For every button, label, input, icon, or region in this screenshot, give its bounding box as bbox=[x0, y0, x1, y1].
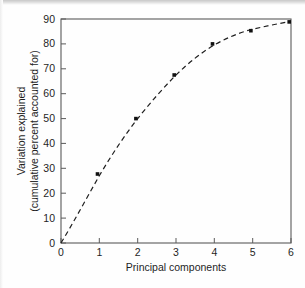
x-tick-label-4: 4 bbox=[211, 246, 217, 258]
x-axis-title: Principal components bbox=[126, 261, 226, 273]
x-tick-label-5: 5 bbox=[250, 246, 256, 258]
data-point-pc5 bbox=[249, 29, 253, 33]
y-tick-label-80: 80 bbox=[43, 37, 55, 49]
figure-canvas: 0 10 20 30 40 50 60 70 80 90 0 1 2 3 4 5… bbox=[0, 0, 305, 288]
x-tick-label-3: 3 bbox=[173, 246, 179, 258]
y-tick-label-40: 40 bbox=[43, 137, 55, 149]
y-axis-title-line2: (cumulative percent accounted for) bbox=[28, 50, 40, 212]
x-tick-label-6: 6 bbox=[288, 246, 294, 258]
y-axis-ticks bbox=[61, 19, 66, 243]
series-line-cumulative-variation bbox=[61, 22, 291, 244]
y-tick-label-60: 60 bbox=[43, 87, 55, 99]
x-tick-label-1: 1 bbox=[96, 246, 102, 258]
plot-frame bbox=[61, 19, 291, 243]
data-point-pc4 bbox=[211, 42, 215, 46]
data-point-pc1 bbox=[96, 172, 100, 176]
x-tick-label-2: 2 bbox=[135, 246, 141, 258]
data-point-pc6 bbox=[287, 20, 291, 24]
data-point-pc3 bbox=[172, 73, 176, 77]
x-axis-ticks bbox=[61, 238, 291, 243]
x-tick-label-0: 0 bbox=[58, 246, 64, 258]
y-tick-label-20: 20 bbox=[43, 187, 55, 199]
y-tick-label-0: 0 bbox=[49, 237, 55, 249]
y-tick-label-30: 30 bbox=[43, 162, 55, 174]
y-tick-label-10: 10 bbox=[43, 212, 55, 224]
data-point-pc2 bbox=[134, 117, 138, 121]
y-tick-label-50: 50 bbox=[43, 112, 55, 124]
series-markers bbox=[96, 20, 291, 176]
y-tick-label-90: 90 bbox=[43, 13, 55, 25]
y-tick-label-70: 70 bbox=[43, 62, 55, 74]
line-chart: 0 10 20 30 40 50 60 70 80 90 0 1 2 3 4 5… bbox=[0, 0, 305, 288]
y-axis-title-line1: Variation explained bbox=[15, 87, 27, 176]
